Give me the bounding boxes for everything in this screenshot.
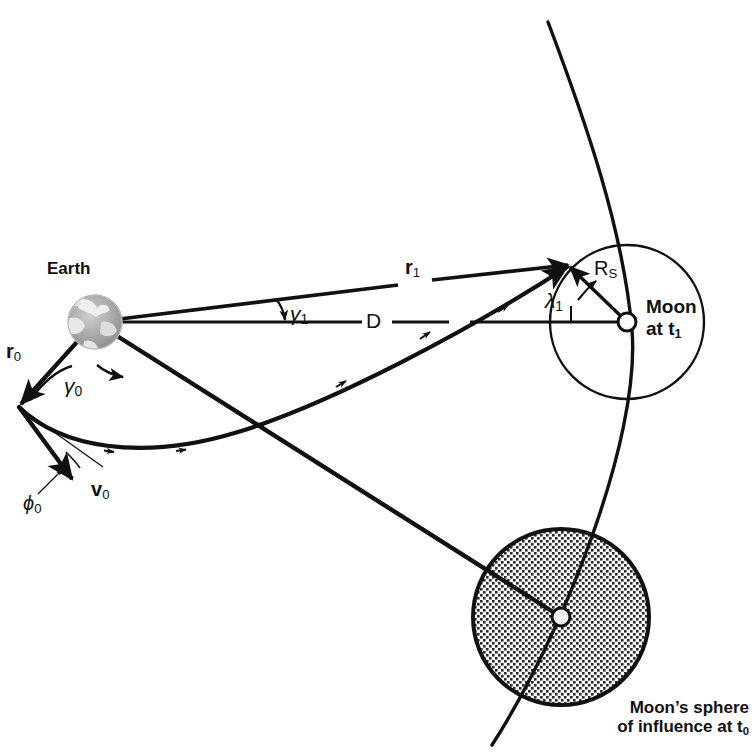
gamma1-subscript: 1	[301, 311, 309, 327]
local-horizon-line	[19, 407, 103, 467]
spacecraft-trajectory	[19, 267, 567, 452]
r1-position-vector	[95, 265, 568, 322]
v0-velocity-vector	[19, 407, 72, 479]
phi0-label: ϕ0	[23, 492, 41, 517]
gamma1-angle-arc	[276, 299, 285, 320]
moon-label-line2: at t	[646, 318, 675, 339]
moon-at-t1-label: Moonat t1	[646, 296, 697, 341]
diagram-canvas: Earth r0 γ0 ϕ0 v0 r1 γ1 D RS λ1 Moonat t…	[0, 0, 755, 755]
trajectory-direction-arrow	[104, 451, 114, 453]
v0-label: v0	[91, 478, 109, 503]
r0-label: r0	[6, 340, 21, 365]
gamma1-label: γ1	[290, 302, 308, 328]
r1-subscript: 1	[413, 265, 420, 280]
D-label: D	[366, 309, 381, 333]
gamma0-label: γ0	[64, 374, 82, 400]
trajectory-direction-arrow	[176, 450, 186, 452]
diagram-svg	[0, 0, 755, 755]
lambda1-symbol: λ	[545, 289, 555, 312]
moon-label-line1: Moon	[646, 296, 697, 317]
Rs-symbol: R	[594, 257, 608, 279]
phi0-symbol: ϕ	[23, 492, 34, 514]
soi-caption-line2: of influence at t	[617, 717, 743, 736]
lambda1-label: λ1	[545, 289, 563, 315]
v0-subscript: 0	[102, 487, 109, 502]
soi-caption-subscript: 0	[743, 725, 749, 737]
gamma0-subscript: 0	[75, 383, 83, 399]
moon-dot-t1	[618, 313, 636, 331]
gamma0-symbol: γ	[64, 374, 75, 397]
moon-dot-t0	[552, 608, 570, 626]
soi-caption-line1: Moon’s sphere	[630, 698, 749, 717]
trajectory-direction-arrow	[420, 332, 430, 339]
lambda1-subscript: 1	[555, 298, 563, 314]
phi0-subscript: 0	[34, 501, 41, 516]
r1-label: r1	[405, 256, 420, 281]
Rs-subscript: S	[608, 266, 617, 281]
r0-symbol: r	[6, 340, 14, 362]
earth-label: Earth	[47, 259, 90, 278]
gamma1-symbol: γ	[290, 302, 301, 325]
trajectory-direction-arrow	[336, 381, 346, 387]
soi-caption: Moon’s sphereof influence at t0	[525, 698, 749, 737]
Rs-label: RS	[594, 257, 617, 282]
r0-subscript: 0	[14, 349, 21, 364]
earth-to-moon-t0-line	[95, 322, 561, 617]
v0-symbol: v	[91, 478, 102, 500]
moon-label-subscript: 1	[675, 327, 682, 341]
r1-symbol: r	[405, 256, 413, 278]
